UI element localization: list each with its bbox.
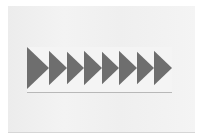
triangle-strip xyxy=(27,47,177,93)
surface-edge xyxy=(8,132,195,133)
triangle-block xyxy=(27,47,49,93)
triangle-shape xyxy=(27,47,49,89)
